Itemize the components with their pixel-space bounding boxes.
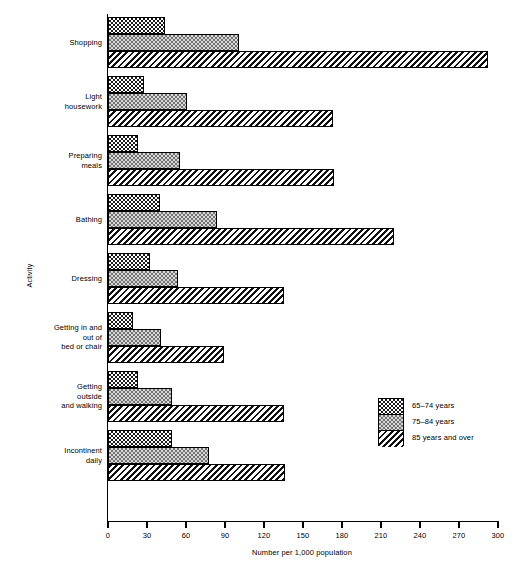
x-tick <box>224 521 225 528</box>
bar-1 <box>108 388 172 405</box>
legend-label-85-over: 85 years and over <box>412 433 474 442</box>
bar-0 <box>108 430 172 447</box>
bar-group: Lighthousework <box>108 76 497 127</box>
x-tick-label: 150 <box>283 531 323 540</box>
bar-group: Gettingoutsideand walking <box>108 371 497 422</box>
legend-swatch-1 <box>379 415 403 431</box>
bar-2 <box>108 346 224 363</box>
legend-swatch-2 <box>379 431 403 447</box>
bar-0 <box>108 253 150 270</box>
x-tick <box>458 521 459 528</box>
x-tick <box>107 521 108 528</box>
x-tick <box>302 521 303 528</box>
bar-2 <box>108 287 284 304</box>
x-tick-label: 30 <box>127 531 167 540</box>
legend-swatch-box <box>378 398 404 446</box>
category-label: Bathing <box>8 215 108 224</box>
category-label: Preparingmeals <box>8 151 108 170</box>
x-tick-label: 180 <box>322 531 362 540</box>
plot-area: ShoppingLighthouseworkPreparingmealsBath… <box>107 14 497 522</box>
bar-group: Getting in andout ofbed or chair <box>108 312 497 363</box>
x-tick <box>146 521 147 528</box>
bar-group: Shopping <box>108 17 497 68</box>
legend-swatch-0 <box>379 399 403 415</box>
bar-0 <box>108 194 160 211</box>
bar-0 <box>108 17 165 34</box>
bar-0 <box>108 371 138 388</box>
x-tick-label: 300 <box>478 531 518 540</box>
bar-2 <box>108 51 488 68</box>
x-tick-label: 240 <box>400 531 440 540</box>
x-tick-label: 270 <box>439 531 479 540</box>
x-tick <box>497 521 498 528</box>
category-label: Getting in andout ofbed or chair <box>8 323 108 351</box>
bar-group: Dressing <box>108 253 497 304</box>
legend-label-65-74: 65–74 years <box>412 401 454 410</box>
bar-2 <box>108 464 285 481</box>
category-label: Lighthousework <box>8 92 108 111</box>
bar-group: Bathing <box>108 194 497 245</box>
bar-0 <box>108 312 133 329</box>
x-tick-label: 210 <box>361 531 401 540</box>
x-tick-label: 120 <box>244 531 284 540</box>
category-label: Gettingoutsideand walking <box>8 382 108 410</box>
bar-1 <box>108 152 180 169</box>
bar-0 <box>108 135 138 152</box>
category-label: Incontinentdaily <box>8 446 108 465</box>
category-label: Shopping <box>8 38 108 47</box>
category-label: Dressing <box>8 274 108 283</box>
legend-label-75-84: 75–84 years <box>412 417 454 426</box>
bar-2 <box>108 110 333 127</box>
bar-chart: Activity ShoppingLighthouseworkPreparing… <box>0 0 522 578</box>
x-tick-label: 60 <box>166 531 206 540</box>
bar-1 <box>108 211 217 228</box>
x-tick <box>263 521 264 528</box>
bar-1 <box>108 93 187 110</box>
bar-2 <box>108 228 394 245</box>
x-axis-title: Number per 1,000 population <box>107 548 497 557</box>
bar-0 <box>108 76 144 93</box>
x-tick <box>380 521 381 528</box>
bar-2 <box>108 405 284 422</box>
bar-1 <box>108 34 239 51</box>
bar-1 <box>108 447 209 464</box>
bar-2 <box>108 169 334 186</box>
x-tick-label: 90 <box>205 531 245 540</box>
bar-1 <box>108 270 178 287</box>
x-tick-label: 0 <box>88 531 128 540</box>
x-tick <box>419 521 420 528</box>
bar-1 <box>108 329 161 346</box>
bar-group: Preparingmeals <box>108 135 497 186</box>
x-tick <box>341 521 342 528</box>
x-tick <box>185 521 186 528</box>
